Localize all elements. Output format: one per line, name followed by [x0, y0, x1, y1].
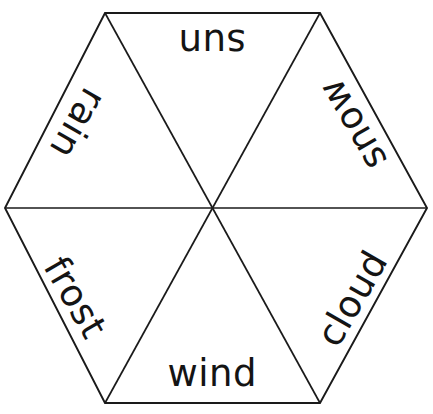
sector-label-sun: sun [178, 21, 246, 64]
sector-label-wind: wind [168, 352, 257, 395]
word-wheel-canvas: sun snow cloud wind frost rain [0, 0, 433, 414]
